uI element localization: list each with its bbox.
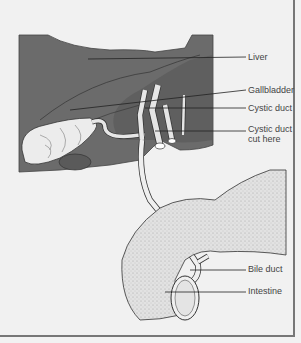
label-liver: Liver bbox=[248, 52, 268, 62]
label-cystic-duct-cut: Cystic duct bbox=[248, 124, 292, 134]
label-cystic-duct: Cystic duct bbox=[248, 103, 292, 113]
label-cystic-duct-cut-line2: cut here bbox=[248, 134, 281, 144]
label-gallbladder: Gallbladder bbox=[248, 85, 294, 95]
label-intestine: Intestine bbox=[248, 286, 282, 296]
label-bile-duct: Bile duct bbox=[248, 264, 283, 274]
